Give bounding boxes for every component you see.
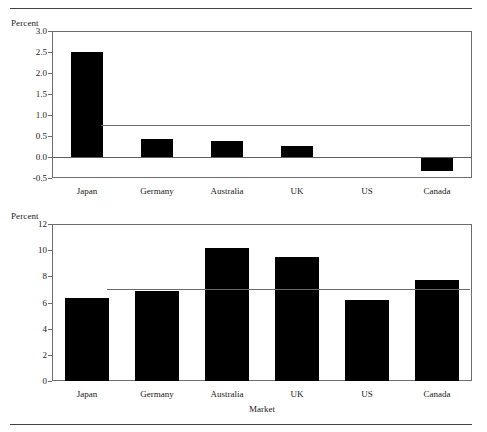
y-tick-mark xyxy=(48,303,52,304)
bottom-chart-panel: Percent 121086420 JapanGermanyAustraliaU… xyxy=(0,0,487,432)
y-tick-label: 8 xyxy=(21,272,47,281)
bar-germany xyxy=(135,291,178,381)
category-label-canada: Canada xyxy=(397,389,477,399)
y-tick-mark xyxy=(48,355,52,356)
y-tick-mark xyxy=(48,329,52,330)
bar-uk xyxy=(275,257,318,381)
bar-japan xyxy=(65,298,108,381)
category-label-uk: UK xyxy=(257,389,337,399)
y-tick-label: 6 xyxy=(21,299,47,308)
y-tick-mark xyxy=(48,250,52,251)
category-label-germany: Germany xyxy=(117,389,197,399)
y-tick-mark xyxy=(48,381,52,382)
y-tick-label: 12 xyxy=(21,220,47,229)
y-tick-label: 10 xyxy=(21,246,47,255)
bottom-chart-plot-area xyxy=(52,224,472,381)
bottom-chart-x-axis-title: Market xyxy=(52,404,472,414)
category-label-us: US xyxy=(327,389,407,399)
y-tick-label: 2 xyxy=(21,351,47,360)
y-tick-label: 4 xyxy=(21,325,47,334)
y-tick-mark xyxy=(48,224,52,225)
bar-canada xyxy=(415,280,458,381)
category-label-japan: Japan xyxy=(47,389,127,399)
reference-line xyxy=(107,289,470,290)
category-label-australia: Australia xyxy=(187,389,267,399)
figure-bottom-rule xyxy=(10,424,472,425)
y-tick-mark xyxy=(48,276,52,277)
bar-us xyxy=(345,300,388,381)
bar-australia xyxy=(205,248,248,381)
y-tick-label: 0 xyxy=(21,377,47,386)
